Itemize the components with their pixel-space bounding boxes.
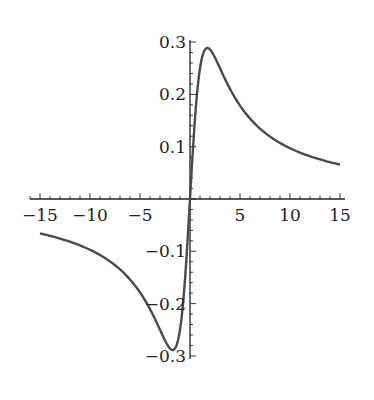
- y-tick-label: 0.1: [159, 137, 186, 157]
- x-tick-label: 10: [279, 205, 301, 225]
- x-tick-label: −15: [22, 205, 58, 225]
- y-tick-label: 0.3: [159, 32, 186, 52]
- y-tick-label: 0.2: [159, 84, 186, 104]
- y-tick-label: −0.1: [145, 241, 186, 261]
- y-tick-label: −0.3: [145, 346, 186, 366]
- x-axis: [30, 193, 345, 199]
- x-tick-label: −10: [72, 205, 108, 225]
- x-tick-label: 5: [235, 205, 246, 225]
- chart: −15−10−551015 0.30.20.1−0.1−0.2−0.3: [0, 0, 374, 400]
- x-tick-labels: −15−10−551015: [22, 205, 351, 225]
- x-tick-label: −5: [127, 205, 152, 225]
- x-tick-label: 15: [329, 205, 351, 225]
- y-tick-label: −0.2: [145, 294, 186, 314]
